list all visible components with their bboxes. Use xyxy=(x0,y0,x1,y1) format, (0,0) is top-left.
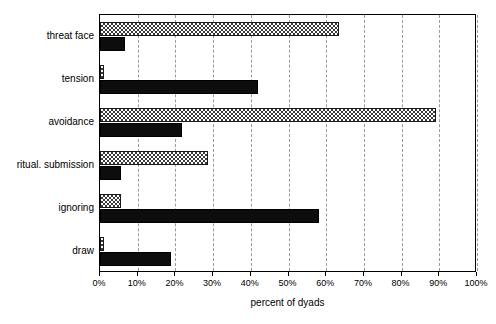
x-axis-title: percent of dyads xyxy=(99,297,476,309)
y-axis-label: ignoring xyxy=(0,202,94,214)
x-axis-tick xyxy=(212,272,213,276)
bar-hatched xyxy=(100,65,104,79)
bar-hatched xyxy=(100,108,436,122)
bar-solid xyxy=(100,123,182,137)
bar-group xyxy=(100,237,475,266)
bar-group xyxy=(100,22,475,51)
plot-area xyxy=(99,14,476,272)
bar-chart: threat facetensionavoidanceritual. submi… xyxy=(0,0,496,324)
bar-group xyxy=(100,151,475,180)
x-axis-tick-label: 100% xyxy=(454,278,496,289)
bar-solid xyxy=(100,37,125,51)
x-axis-tick xyxy=(476,272,477,276)
y-axis-label: threat face xyxy=(0,30,94,42)
x-axis-tick xyxy=(288,272,289,276)
x-axis-tick xyxy=(401,272,402,276)
y-axis-label: tension xyxy=(0,73,94,85)
y-axis-labels: threat facetensionavoidanceritual. submi… xyxy=(0,14,94,272)
x-axis-tick xyxy=(174,272,175,276)
x-axis-tick-labels: 0%10%20%30%40%50%60%70%80%90%100% xyxy=(0,278,496,292)
y-axis-label: draw xyxy=(0,245,94,257)
bar-hatched xyxy=(100,237,104,251)
bars-layer xyxy=(100,15,475,271)
bar-group xyxy=(100,65,475,94)
bar-solid xyxy=(100,209,319,223)
y-axis-label: ritual. submission xyxy=(0,159,94,171)
x-axis-tick xyxy=(250,272,251,276)
bar-hatched xyxy=(100,194,121,208)
bar-hatched xyxy=(100,151,208,165)
bar-solid xyxy=(100,166,121,180)
y-axis-label: avoidance xyxy=(0,116,94,128)
gridline-100% xyxy=(477,15,478,271)
bar-solid xyxy=(100,80,258,94)
bar-group xyxy=(100,194,475,223)
bar-solid xyxy=(100,252,171,266)
x-axis-tick xyxy=(99,272,100,276)
bar-hatched xyxy=(100,22,339,36)
x-axis-tick xyxy=(325,272,326,276)
bar-group xyxy=(100,108,475,137)
x-axis-tick xyxy=(137,272,138,276)
x-axis-tick xyxy=(438,272,439,276)
x-axis-tick xyxy=(363,272,364,276)
